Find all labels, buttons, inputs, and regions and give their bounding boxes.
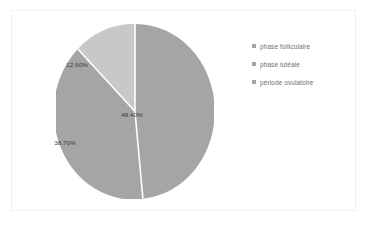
legend-item-label: période ovulatoire: [260, 79, 314, 86]
pie-chart-plot-area: 48.40% 38.70% 12.90% phase folliculaire …: [12, 11, 355, 210]
chart-legend: phase folliculaire phase lutéale période…: [252, 37, 352, 91]
legend-item-phase-folliculaire[interactable]: phase folliculaire: [252, 37, 352, 55]
data-label-periode-ovulatoire: 12.90%: [66, 61, 88, 68]
data-label-phase-luteale: 38.70%: [54, 139, 76, 146]
legend-item-phase-luteale[interactable]: phase lutéale: [252, 55, 352, 73]
legend-item-periode-ovulatoire[interactable]: période ovulatoire: [252, 73, 352, 91]
legend-swatch-icon: [252, 44, 256, 48]
chart-frame: 48.40% 38.70% 12.90% phase folliculaire …: [11, 10, 356, 211]
data-label-phase-folliculaire: 48.40%: [121, 111, 143, 118]
legend-item-label: phase folliculaire: [260, 43, 310, 50]
legend-item-label: phase lutéale: [260, 61, 300, 68]
legend-swatch-icon: [252, 62, 256, 66]
legend-swatch-icon: [252, 80, 256, 84]
pie-slice-phase-folliculaire[interactable]: [135, 24, 214, 199]
